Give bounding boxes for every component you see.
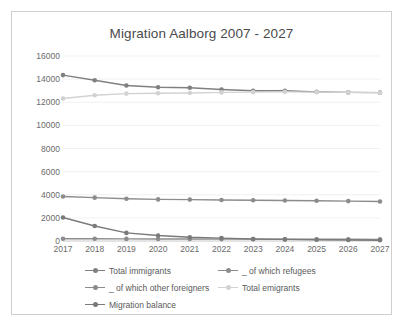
data-point [251, 237, 256, 242]
data-point [124, 237, 129, 242]
x-tick-label: 2021 [180, 244, 199, 254]
legend-label: _ of which other foreigners [109, 283, 209, 293]
data-point [283, 198, 288, 203]
data-point [61, 236, 66, 241]
data-point [92, 93, 97, 98]
data-point [346, 238, 351, 243]
data-point [61, 73, 66, 78]
series-3 [61, 194, 383, 204]
data-point [61, 215, 66, 220]
legend-marker-icon [85, 301, 105, 309]
legend-marker-icon [85, 284, 105, 292]
data-point [61, 194, 66, 199]
chart-container: Migration Aalborg 2007 - 2027 1600014000… [11, 11, 392, 315]
data-point [251, 90, 256, 95]
legend-label: Total emigrants [242, 283, 300, 293]
y-tick-label: 8000 [14, 144, 60, 154]
data-point [188, 85, 193, 90]
x-tick-label: 2018 [85, 244, 104, 254]
legend-item[interactable]: Total immigrants [63, 266, 208, 276]
y-tick-label: 12000 [14, 97, 60, 107]
x-axis: 2017201820192020202120222023202420252026… [63, 244, 380, 258]
data-point [156, 85, 161, 90]
data-point [378, 90, 383, 95]
data-point [92, 237, 97, 242]
chart-title: Migration Aalborg 2007 - 2027 [12, 26, 391, 41]
legend-marker-icon [218, 267, 238, 275]
y-tick-label: 4000 [14, 190, 60, 200]
data-point [92, 195, 97, 200]
legend-item[interactable]: _ of which other foreigners [63, 283, 208, 293]
data-point [346, 90, 351, 95]
data-point [219, 198, 224, 203]
legend-item[interactable]: Total emigrants [208, 283, 300, 293]
data-point [61, 96, 66, 101]
data-point [124, 196, 129, 201]
legend-item[interactable]: _ of which refugees [208, 266, 316, 276]
x-tick-label: 2022 [212, 244, 231, 254]
data-point [378, 238, 383, 243]
legend-marker-icon [218, 284, 238, 292]
y-axis: 1600014000120001000080006000400020000 [12, 56, 60, 241]
data-point [314, 237, 319, 242]
legend-label: Migration balance [109, 300, 176, 310]
x-tick-label: 2019 [117, 244, 136, 254]
x-tick-label: 2024 [275, 244, 294, 254]
plot-area [63, 56, 380, 241]
legend-row: Total immigrants_ of which refugees [63, 262, 383, 279]
data-point [124, 83, 129, 88]
y-tick-label: 14000 [14, 74, 60, 84]
x-tick-label: 2023 [244, 244, 263, 254]
data-point [156, 197, 161, 202]
data-point [188, 91, 193, 96]
data-point [156, 233, 161, 238]
data-point [188, 235, 193, 240]
series-4 [61, 90, 383, 101]
chart-legend: Total immigrants_ of which refugees_ of … [63, 262, 383, 313]
legend-label: Total immigrants [109, 266, 171, 276]
legend-label: _ of which refugees [242, 266, 316, 276]
data-point [219, 236, 224, 241]
data-point [188, 197, 193, 202]
data-point [314, 90, 319, 95]
plot-svg [63, 56, 380, 241]
data-point [92, 78, 97, 83]
x-tick-label: 2020 [149, 244, 168, 254]
data-point [124, 91, 129, 96]
data-point [378, 199, 383, 204]
data-point [314, 198, 319, 203]
y-tick-label: 16000 [14, 51, 60, 61]
y-tick-label: 10000 [14, 120, 60, 130]
data-point [219, 90, 224, 95]
y-tick-label: 6000 [14, 167, 60, 177]
legend-item[interactable]: Migration balance [63, 300, 208, 310]
data-point [346, 199, 351, 204]
data-point [92, 224, 97, 229]
x-tick-label: 2017 [54, 244, 73, 254]
y-tick-label: 2000 [14, 213, 60, 223]
data-point [124, 231, 129, 236]
legend-row: Migration balance [63, 296, 383, 313]
data-point [283, 237, 288, 242]
x-tick-label: 2027 [371, 244, 390, 254]
x-tick-label: 2026 [339, 244, 358, 254]
data-point [251, 198, 256, 203]
data-point [156, 91, 161, 96]
legend-marker-icon [85, 267, 105, 275]
legend-row: _ of which other foreignersTotal emigran… [63, 279, 383, 296]
x-tick-label: 2025 [307, 244, 326, 254]
data-point [283, 90, 288, 95]
